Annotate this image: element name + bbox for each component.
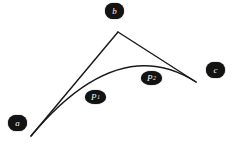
point-label-b-text: b: [112, 7, 117, 16]
point-label-p2-subscript: 2: [153, 75, 156, 81]
control-polygon-group: [31, 32, 196, 136]
point-label-p1-subscript: 1: [97, 94, 100, 100]
bezier-curve-path: [31, 66, 196, 136]
point-label-a: a: [8, 115, 27, 131]
point-label-c-text: c: [214, 66, 218, 75]
point-label-a-text: a: [15, 119, 20, 128]
figure-canvas: [0, 0, 233, 144]
point-label-p2-base: P: [147, 74, 153, 83]
point-label-p1-base: P: [91, 93, 97, 102]
point-label-b: b: [105, 3, 124, 19]
point-label-p2: P2: [141, 71, 162, 85]
point-label-p1: P1: [85, 90, 106, 104]
bezier-figure: a b c P1 P2: [0, 0, 233, 144]
point-label-c: c: [206, 62, 225, 78]
